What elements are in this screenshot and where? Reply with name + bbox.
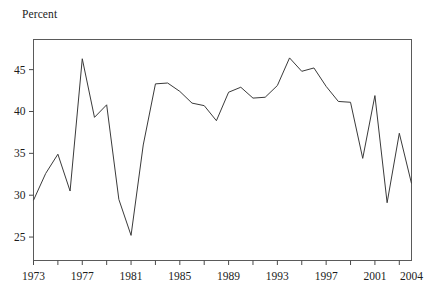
x-axis-ticks: 197319771981198519891993199720012004 <box>22 261 423 282</box>
plot-border <box>34 40 412 261</box>
y-tick-label: 25 <box>14 231 26 243</box>
x-tick-label: 2004 <box>400 270 423 282</box>
x-tick-label: 1997 <box>315 270 338 282</box>
y-tick-label: 45 <box>14 64 26 76</box>
x-tick-label: 2001 <box>363 270 386 282</box>
chart-figure: Percent 2530354045 197319771981198519891… <box>0 0 430 303</box>
x-tick-label: 1973 <box>22 270 45 282</box>
data-series-group <box>34 58 412 235</box>
x-tick-label: 1977 <box>71 270 94 282</box>
axis-frame <box>34 40 412 261</box>
x-tick-label: 1985 <box>168 270 191 282</box>
y-tick-label: 30 <box>14 189 26 201</box>
x-tick-label: 1989 <box>217 270 240 282</box>
x-tick-label: 1981 <box>120 270 143 282</box>
x-tick-label: 1993 <box>266 270 289 282</box>
y-tick-label: 40 <box>14 105 26 117</box>
data-line <box>34 58 412 235</box>
y-tick-label: 35 <box>14 147 26 159</box>
y-axis-ticks: 2530354045 <box>14 64 34 243</box>
line-chart-plot: 2530354045 19731977198119851989199319972… <box>0 0 430 303</box>
